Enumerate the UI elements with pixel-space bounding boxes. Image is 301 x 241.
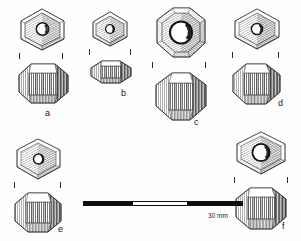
- tick-mark-left: [234, 177, 235, 183]
- tick-mark-right: [287, 177, 288, 183]
- specimen-b-label: b: [121, 89, 126, 98]
- tick-mark-left: [89, 49, 90, 55]
- specimen-e-label: e: [58, 225, 63, 234]
- specimen-c-tick-marks: [150, 62, 212, 69]
- specimen-b-top-view: [88, 10, 132, 48]
- specimen-e-top-view: [11, 137, 67, 181]
- tick-mark-right: [60, 182, 61, 188]
- scale-bar-segment-black-right: [187, 201, 243, 206]
- scale-bar-segment-black-left: [83, 201, 133, 206]
- specimen-a-label: a: [45, 109, 50, 118]
- tick-mark-right: [278, 52, 279, 58]
- tick-mark-left: [232, 52, 233, 58]
- specimen-f-label: f: [282, 222, 285, 231]
- tick-mark-left: [19, 53, 20, 59]
- tick-mark-right: [130, 49, 131, 55]
- specimen-d-label: d: [278, 99, 283, 108]
- specimen-e-tick-marks: [11, 182, 67, 189]
- specimen-c-label: c: [194, 118, 199, 127]
- tick-mark-left: [14, 182, 15, 188]
- specimen-f-tick-marks: [230, 177, 292, 184]
- illustration-plate: a: [0, 0, 301, 241]
- scale-bar: [83, 201, 243, 207]
- scale-bar-segment-white: [133, 201, 187, 206]
- specimen-a-profile-view: [15, 61, 73, 107]
- specimen-a-tick-marks: [14, 53, 70, 60]
- specimen-c-profile-view: [150, 71, 212, 123]
- scale-bar-label: 30 mm: [208, 212, 228, 219]
- specimen-a-top-view: [14, 6, 70, 52]
- specimen-c-top-view: [150, 5, 212, 61]
- tick-mark-right: [205, 62, 206, 68]
- tick-mark-right: [62, 53, 63, 59]
- specimen-d-tick-marks: [228, 52, 286, 59]
- specimen-b-profile-view: [88, 58, 134, 86]
- specimen-b-tick-marks: [88, 49, 132, 56]
- tick-mark-left: [152, 62, 153, 68]
- specimen-d-top-view: [228, 7, 286, 51]
- specimen-f-top-view: [230, 130, 292, 176]
